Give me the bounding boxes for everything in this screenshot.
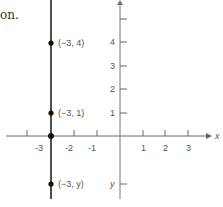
x-tick-label: -1 [88,143,96,153]
y-ticks [120,19,127,184]
point-label: (−3, 4) [58,38,84,48]
x-tick-label: 2 [163,143,168,153]
y-tick-label: 3 [110,61,115,71]
y-tick-label: y [109,179,115,189]
x-tick-label: 3 [186,143,191,153]
y-tick-label: 1 [110,108,115,118]
y-axis-arrow-icon [117,0,123,5]
point [48,133,54,139]
x-axis-arrow-icon [206,133,212,139]
point [48,181,53,186]
x-tick-label: -3 [35,143,43,153]
point [48,40,53,45]
point [48,110,53,115]
point-label: (−3, y) [58,179,84,189]
y-tick-label: 4 [110,37,115,47]
x-tick-label: -2 [65,143,73,153]
coordinate-plane: x -3 -2 -1 1 2 3 1 2 3 4 y (−3, 4) (−3, … [0,0,223,207]
x-axis-label: x [214,131,220,141]
point-label: (−3, 1) [58,108,84,118]
y-tick-label: 2 [110,84,115,94]
x-tick-label: 1 [141,143,146,153]
